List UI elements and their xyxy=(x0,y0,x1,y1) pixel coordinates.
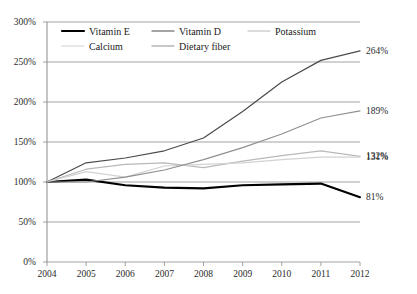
y-axis-label: 250% xyxy=(2,57,36,67)
series-line-vitamin-d xyxy=(47,51,360,182)
y-axis-label: 100% xyxy=(2,177,36,187)
end-value-label-calcium: 131% xyxy=(366,152,388,162)
x-axis-label: 2004 xyxy=(27,269,67,279)
legend-label-potassium: Potassium xyxy=(275,26,316,37)
series-line-calcium xyxy=(47,157,360,182)
y-axis-label: 300% xyxy=(2,17,36,27)
legend-label-vitamin-e: Vitamin E xyxy=(89,26,130,37)
x-axis-label: 2012 xyxy=(340,269,380,279)
series-line-dietary-fiber xyxy=(47,111,360,182)
series-line-potassium xyxy=(47,151,360,182)
x-axis-label: 2009 xyxy=(223,269,263,279)
end-value-label-dietary-fiber: 189% xyxy=(366,106,388,116)
end-value-label-vitamin-e: 81% xyxy=(366,192,383,202)
x-axis-label: 2010 xyxy=(262,269,302,279)
y-axis-label: 50% xyxy=(2,217,36,227)
x-axis-label: 2011 xyxy=(301,269,341,279)
x-axis-label: 2005 xyxy=(66,269,106,279)
legend-label-vitamin-d: Vitamin D xyxy=(179,26,221,37)
x-axis-label: 2008 xyxy=(184,269,224,279)
legend-label-dietary-fiber: Dietary fiber xyxy=(179,41,230,52)
y-axis-label: 200% xyxy=(2,97,36,107)
x-axis-label: 2007 xyxy=(144,269,184,279)
line-chart: 0%50%100%150%200%250%300%200420052006200… xyxy=(0,0,417,294)
y-axis-label: 150% xyxy=(2,137,36,147)
legend-label-calcium: Calcium xyxy=(89,41,123,52)
x-axis-label: 2006 xyxy=(105,269,145,279)
end-value-label-vitamin-d: 264% xyxy=(366,46,388,56)
y-axis-label: 0% xyxy=(2,257,36,267)
